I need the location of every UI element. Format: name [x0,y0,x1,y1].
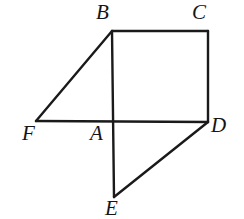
segment-BE [112,31,114,197]
vertex-label-C: C [192,2,206,23]
segment-group [36,31,208,197]
vertex-label-A: A [90,123,103,144]
segment-DE [114,122,208,197]
vertex-label-D: D [211,115,226,136]
vertex-label-F: F [22,123,35,144]
vertex-label-E: E [105,198,118,219]
figure-canvas [0,0,244,219]
segment-FB [36,31,112,121]
segment-FD [36,121,208,122]
vertex-label-B: B [96,2,109,23]
geometry-figure: B C D A F E [0,0,244,219]
